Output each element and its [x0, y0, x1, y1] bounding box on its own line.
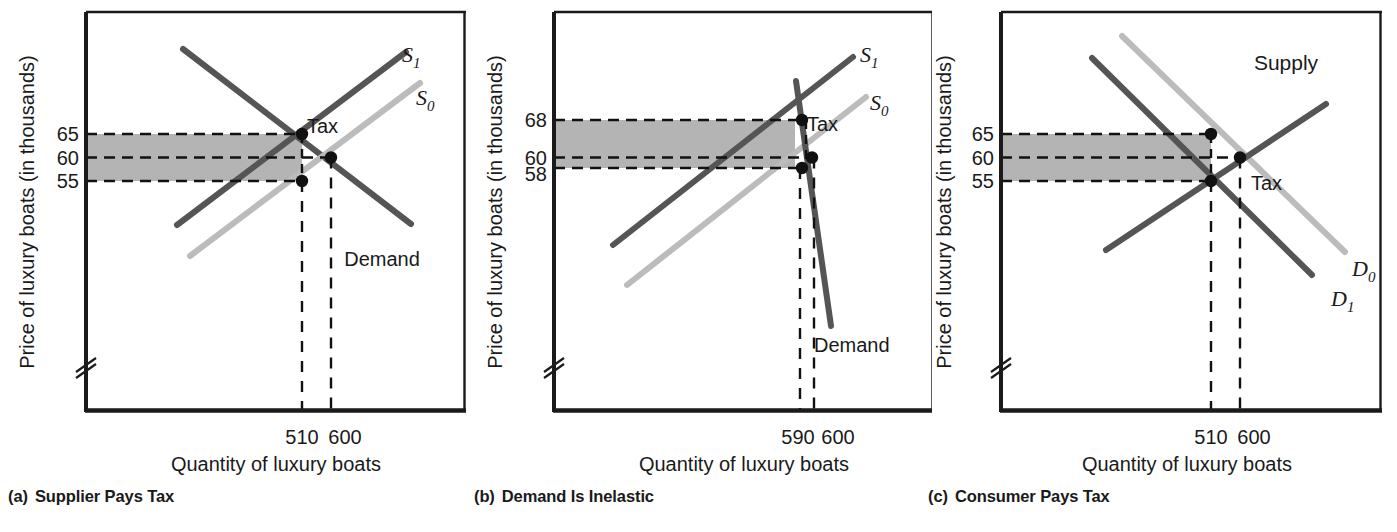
- tax-label: Tax: [1251, 172, 1282, 194]
- panel-b-demand-is-inelastic: 68 60 58 590 600 S1 S0 Demand Tax Quanti…: [466, 0, 932, 532]
- y-tick-label-1: 60: [972, 147, 994, 169]
- supply-curve-label: Supply: [1254, 51, 1319, 74]
- s0-curve-label: S0: [416, 85, 435, 114]
- s0-curve-label: S0: [870, 90, 889, 119]
- y-axis-title: Price of luxury boats (in thousands): [484, 55, 506, 369]
- x-tick-label-0: 590: [781, 426, 814, 448]
- point-510-55: [1205, 175, 1217, 187]
- point-600-60: [1234, 151, 1246, 163]
- s1-curve-label: S1: [860, 42, 879, 71]
- demand-curve-label: Demand: [814, 334, 890, 356]
- y-tick-label-0: 65: [972, 123, 994, 145]
- y-tick-label-2: 55: [57, 170, 79, 192]
- panel-b-caption-letter: (b): [474, 487, 495, 505]
- panel-a-supplier-pays-tax: 65 60 55 510 600 S1 S0 Demand Tax Quanti…: [0, 0, 466, 532]
- panel-c-caption: (c)Consumer Pays Tax: [928, 487, 1110, 506]
- x-tick-label-1: 600: [1237, 426, 1270, 448]
- y-tick-label-0: 65: [57, 123, 79, 145]
- y-axis-title: Price of luxury boats (in thousands): [16, 55, 38, 369]
- y-tick-label-2: 55: [972, 170, 994, 192]
- panel-a-caption-letter: (a): [8, 487, 28, 505]
- point-600-60: [806, 151, 818, 163]
- x-axis-title: Quantity of luxury boats: [1082, 453, 1292, 475]
- x-tick-label-1: 600: [328, 426, 361, 448]
- panel-a-caption: (a)Supplier Pays Tax: [8, 487, 174, 506]
- y-tick-label-2: 58: [525, 163, 547, 185]
- x-axis-title: Quantity of luxury boats: [639, 453, 849, 475]
- panel-a-caption-text: Supplier Pays Tax: [35, 487, 174, 505]
- x-axis-title: Quantity of luxury boats: [171, 453, 381, 475]
- panel-b-caption: (b)Demand Is Inelastic: [474, 487, 654, 506]
- tax-label: Tax: [307, 115, 338, 137]
- point-510-65: [1205, 128, 1217, 140]
- y-axis-title: Price of luxury boats (in thousands): [933, 55, 955, 369]
- point-510-55: [296, 175, 308, 187]
- tax-incidence-figure: 65 60 55 510 600 S1 S0 Demand Tax Quanti…: [0, 0, 1397, 532]
- s1-curve-label: S1: [402, 42, 421, 71]
- panel-c-caption-letter: (c): [928, 487, 948, 505]
- x-tick-label-0: 510: [285, 426, 318, 448]
- panel-c-caption-text: Consumer Pays Tax: [955, 487, 1110, 505]
- tax-label: Tax: [807, 113, 838, 135]
- d1-curve-label: D1: [1330, 286, 1354, 315]
- y-tick-label-1: 60: [57, 147, 79, 169]
- point-590-58: [796, 162, 808, 174]
- y-tick-label-0: 68: [525, 109, 547, 131]
- x-tick-label-0: 510: [1194, 426, 1227, 448]
- panel-c-consumer-pays-tax: 65 60 55 510 600 Supply D0 D1 Tax Quanti…: [931, 0, 1397, 532]
- d0-curve-label: D0: [1351, 256, 1376, 285]
- panel-b-caption-text: Demand Is Inelastic: [502, 487, 654, 505]
- point-600-60: [325, 151, 337, 163]
- demand-curve-label: Demand: [344, 248, 420, 270]
- x-tick-label-1: 600: [821, 426, 854, 448]
